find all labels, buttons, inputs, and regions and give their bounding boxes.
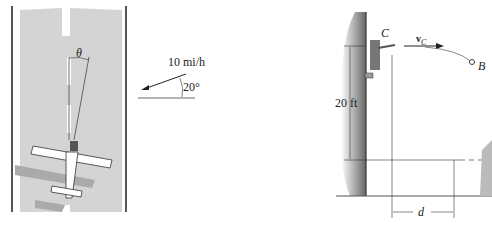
point-c-label: C (381, 26, 389, 41)
airplane-runway-diagram: θ 10 mi/h 20° (0, 0, 250, 239)
wind-speed-label: 10 mi/h (168, 55, 205, 70)
velocity-label: vC (416, 33, 426, 47)
runway-illustration (0, 0, 250, 239)
wind-angle-label: 20° (183, 80, 200, 95)
wall-illustration (300, 0, 492, 239)
distance-label: d (418, 205, 424, 220)
point-b-label: B (478, 59, 485, 74)
height-label: 20 ft (335, 96, 357, 111)
ball-throw-diagram: C vC B 20 ft d (300, 0, 492, 239)
theta-label: θ (76, 46, 82, 61)
